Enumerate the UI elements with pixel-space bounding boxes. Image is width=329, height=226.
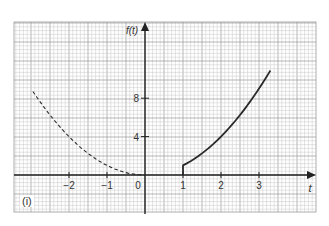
- panel-label: (i): [20, 195, 34, 207]
- svg-text:0: 0: [135, 180, 141, 191]
- svg-text:8: 8: [133, 93, 139, 104]
- svg-text:1: 1: [180, 180, 186, 191]
- svg-text:2: 2: [218, 180, 224, 191]
- svg-text:−1: −1: [101, 180, 113, 191]
- svg-text:4: 4: [133, 132, 139, 143]
- svg-text:−2: −2: [63, 180, 75, 191]
- chart-grid: [14, 22, 316, 212]
- chart-figure: −2−1012348f(t)t (i): [0, 0, 329, 226]
- svg-text:3: 3: [256, 180, 262, 191]
- chart-canvas: −2−1012348f(t)t: [0, 0, 329, 226]
- svg-text:f(t): f(t): [126, 25, 138, 36]
